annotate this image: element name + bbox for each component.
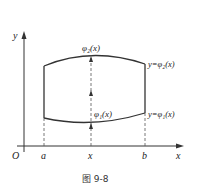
arrow-up-icon [89,56,93,62]
x-axis-arrow-icon [176,144,184,149]
tick-label-b: b [142,150,147,161]
tick-label-x: x [87,150,93,161]
upper-curve-right-label: y=φ₂(x) [147,59,175,69]
figure-caption: 图 9-8 [82,174,109,184]
tick-label-a: a [41,150,46,161]
upper-curve [44,55,145,66]
figure-diagram: y x O a x b φ₂(x) y=φ₂(x) φ₁(x) y=φ₁(x) … [0,0,200,196]
lower-curve-right-label: y=φ₁(x) [147,109,175,119]
arrow-up-icon [89,90,93,96]
dashed-guides [44,55,145,146]
arrow-up-icon [89,123,93,129]
axes [17,31,184,152]
upper-curve-top-label: φ₂(x) [82,43,100,53]
lower-curve-mid-label: φ₁(x) [94,109,112,119]
y-axis-arrow-icon [22,31,27,39]
x-axis-label: x [175,150,181,161]
origin-label: O [12,150,19,161]
y-axis-label: y [12,30,18,41]
